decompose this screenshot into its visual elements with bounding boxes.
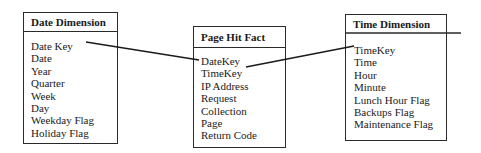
- link-datekey: [86, 42, 199, 60]
- link-timekey: [246, 46, 354, 67]
- relationship-lines: [0, 0, 481, 153]
